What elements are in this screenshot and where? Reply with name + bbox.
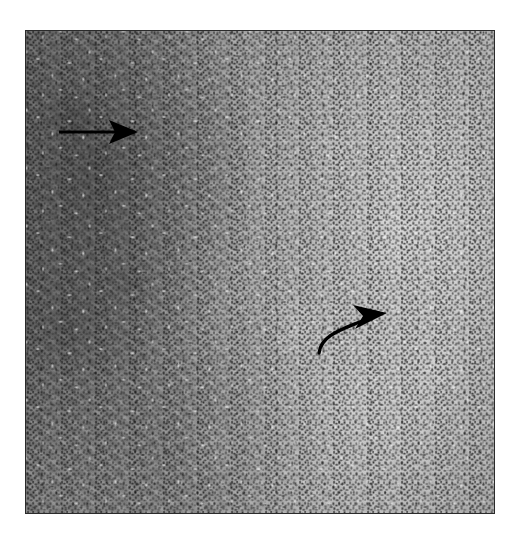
- micrograph-image: [25, 30, 495, 514]
- vignette-layer: [26, 31, 494, 513]
- figure-root: [0, 0, 518, 539]
